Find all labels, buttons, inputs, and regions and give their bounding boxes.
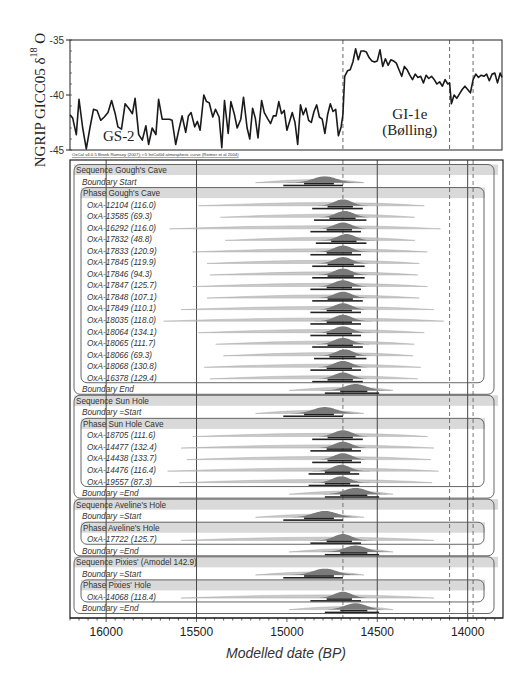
range-bar-68 bbox=[325, 483, 350, 485]
range-bar-95 bbox=[310, 254, 361, 256]
range-bar-68 bbox=[327, 229, 352, 231]
prior-distribution bbox=[181, 537, 434, 540]
y-axis-label-main: NGRIP GICC05 δ bbox=[32, 57, 48, 167]
prior-distribution bbox=[181, 445, 434, 448]
prior-distribution bbox=[193, 249, 428, 252]
prior-distribution bbox=[223, 353, 413, 356]
range-bar-68 bbox=[327, 368, 352, 370]
date-label: OxA-18066 (69.3) bbox=[87, 351, 152, 360]
sequence-label: Sequence Sun Hole bbox=[76, 397, 149, 406]
prior-distribution bbox=[207, 295, 419, 298]
date-label: OxA-19557 (87.3) bbox=[87, 478, 152, 487]
ngrip-isotope-panel: NGRIP GICC05 δ18 O -35-40-45 GS-2GI-1e(B… bbox=[28, 33, 502, 168]
range-bar-68 bbox=[340, 552, 367, 554]
range-bar-95 bbox=[312, 346, 363, 348]
range-bar-95 bbox=[310, 312, 361, 314]
oxcal-credit: OxCal v4.0.5 Bronk Ramsey (2007); r:5 In… bbox=[72, 152, 239, 157]
range-bar-68 bbox=[328, 275, 354, 277]
prior-distribution bbox=[164, 318, 444, 321]
y-axis-label-tail: O bbox=[32, 33, 48, 48]
figure: NGRIP GICC05 δ18 O -35-40-45 GS-2GI-1e(B… bbox=[0, 0, 512, 680]
x-tick-label: 15500 bbox=[180, 625, 214, 639]
range-bar-68 bbox=[340, 494, 367, 496]
date-label: OxA-12104 (116.0) bbox=[87, 201, 156, 210]
range-bar-68 bbox=[331, 241, 356, 243]
date-label: OxA-17832 (48.8) bbox=[87, 235, 152, 244]
range-bar-68 bbox=[328, 344, 353, 346]
range-bar-95 bbox=[310, 450, 361, 452]
date-label: OxA-14476 (116.4) bbox=[87, 466, 156, 475]
prior-distribution bbox=[210, 272, 418, 275]
date-label: OxA-17847 (125.7) bbox=[87, 281, 157, 290]
range-bar-95 bbox=[325, 554, 379, 556]
prior-distribution bbox=[216, 341, 415, 344]
y-axis-label: NGRIP GICC05 δ18 O bbox=[28, 33, 48, 168]
range-bar-95 bbox=[310, 231, 361, 233]
range-bar-95 bbox=[312, 208, 363, 210]
x-tick-label: 16000 bbox=[89, 625, 123, 639]
prior-distribution bbox=[187, 456, 431, 459]
range-bar-68 bbox=[327, 252, 352, 254]
range-bar-68 bbox=[304, 183, 334, 185]
range-bar-95 bbox=[314, 358, 366, 360]
model-rows bbox=[164, 176, 444, 613]
range-bar-95 bbox=[325, 392, 379, 394]
date-label: OxA-16378 (129.4) bbox=[87, 374, 157, 383]
range-bar-68 bbox=[328, 298, 353, 300]
prior-distribution bbox=[168, 468, 439, 471]
boundary-label: Boundary =Start bbox=[82, 408, 142, 417]
x-tick-label: 15000 bbox=[270, 625, 304, 639]
range-bar-68 bbox=[340, 391, 367, 393]
range-bar-68 bbox=[327, 541, 352, 543]
range-bar-68 bbox=[328, 379, 353, 381]
boundary-label: Boundary =End bbox=[82, 604, 139, 613]
range-bar-68 bbox=[327, 333, 352, 335]
prior-distribution bbox=[210, 376, 418, 379]
date-label: OxA-17722 (125.7) bbox=[87, 535, 157, 544]
date-label: OxA-14477 (132.4) bbox=[87, 443, 157, 452]
range-bar-68 bbox=[329, 356, 355, 358]
boundary-label: Boundary =Start bbox=[82, 570, 142, 579]
sequence-label: Sequence Aveline's Hole bbox=[76, 501, 167, 510]
range-bar-68 bbox=[304, 575, 334, 577]
range-bar-95 bbox=[312, 462, 361, 464]
prior-distribution bbox=[181, 595, 434, 598]
range-bar-68 bbox=[328, 460, 352, 462]
date-label: OxA-16292 (116.0) bbox=[87, 224, 156, 233]
prior-distribution bbox=[220, 214, 414, 217]
range-bar-68 bbox=[329, 218, 355, 220]
x-tick-label: 14500 bbox=[361, 625, 395, 639]
date-label: OxA-17848 (107.1) bbox=[87, 293, 157, 302]
date-label: OxA-18065 (111.7) bbox=[87, 339, 156, 348]
range-bar-95 bbox=[310, 369, 361, 371]
sequence-label: Sequence Pixies' (Amodel 142.9) bbox=[76, 558, 197, 567]
date-label: OxA-17833 (120.9) bbox=[87, 247, 157, 256]
range-bar-95 bbox=[314, 219, 366, 221]
range-bar-95 bbox=[325, 496, 379, 498]
range-bar-95 bbox=[283, 185, 343, 187]
range-bar-95 bbox=[310, 289, 361, 291]
range-bar-68 bbox=[328, 206, 353, 208]
date-label: OxA-18064 (134.1) bbox=[87, 328, 157, 337]
prior-distribution bbox=[207, 260, 419, 263]
y-tick-label: -40 bbox=[50, 90, 65, 101]
range-bar-95 bbox=[283, 415, 343, 417]
range-bar-95 bbox=[310, 542, 361, 544]
range-bar-95 bbox=[312, 277, 364, 279]
range-bar-68 bbox=[325, 471, 350, 473]
range-bar-95 bbox=[316, 242, 367, 244]
range-bar-95 bbox=[312, 439, 363, 441]
range-bar-95 bbox=[325, 612, 379, 614]
range-bar-95 bbox=[312, 300, 363, 302]
range-bar-68 bbox=[327, 321, 352, 323]
region-label: GI-1e bbox=[392, 106, 427, 122]
range-bar-68 bbox=[340, 610, 367, 612]
prior-distribution bbox=[225, 237, 415, 240]
range-bar-95 bbox=[309, 473, 360, 475]
y-tick-label: -45 bbox=[50, 145, 65, 156]
y-tick-label: -35 bbox=[50, 35, 65, 46]
phase-label: Phase Gough's Cave bbox=[83, 189, 161, 198]
date-label: OxA-14068 (118.4) bbox=[87, 593, 156, 602]
boundary-label: Boundary =End bbox=[82, 547, 139, 556]
range-bar-68 bbox=[304, 414, 334, 416]
